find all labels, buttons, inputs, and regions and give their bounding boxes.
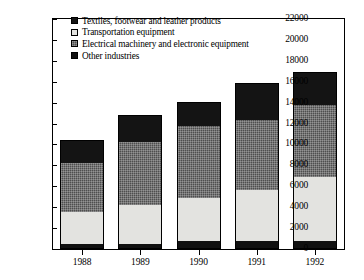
bar-segment xyxy=(118,142,162,205)
x-axis-tick-label: 1988 xyxy=(52,257,112,268)
legend-item-label: Textiles, footwear and leather products xyxy=(82,16,221,26)
bar-segment xyxy=(177,198,221,241)
y-axis-tick-label: 8000 xyxy=(264,161,308,171)
legend-item: Transportation equipment xyxy=(71,27,301,39)
legend-item: Electrical machinery and electronic equi… xyxy=(71,38,301,50)
y-axis-tick-mark xyxy=(52,228,57,229)
bar-group xyxy=(177,102,221,249)
legend-item: Other industries xyxy=(71,50,301,62)
bar-segment xyxy=(235,190,279,241)
legend-swatch-icon xyxy=(71,52,78,59)
y-axis-tick-mark xyxy=(52,165,57,166)
y-axis-tick-mark xyxy=(52,40,57,41)
y-axis-tick-label: 0 xyxy=(264,244,308,254)
bar-group xyxy=(60,140,104,249)
legend-swatch-icon xyxy=(71,29,78,36)
x-axis-tick-mark xyxy=(140,250,141,255)
bar-segment xyxy=(118,244,162,249)
legend-item-label: Electrical machinery and electronic equi… xyxy=(82,39,249,49)
bar-segment xyxy=(118,205,162,244)
bar-group xyxy=(118,115,162,249)
bar-segment xyxy=(60,140,104,163)
y-axis-tick-mark xyxy=(52,207,57,208)
y-axis-tick-label: 10000 xyxy=(264,140,308,150)
y-axis-tick-mark xyxy=(52,61,57,62)
y-axis-tick-mark xyxy=(52,249,57,250)
y-axis xyxy=(0,0,52,280)
y-axis-tick-label: 2000 xyxy=(264,223,308,233)
x-axis-tick-label: 1992 xyxy=(285,257,345,268)
y-axis-tick-label: 16000 xyxy=(264,77,308,87)
bar-segment xyxy=(177,241,221,249)
legend-item: Textiles, footwear and leather products xyxy=(71,15,301,27)
y-axis-tick-mark xyxy=(52,144,57,145)
x-axis-tick-label: 1989 xyxy=(110,257,170,268)
legend-item-label: Other industries xyxy=(82,51,139,61)
y-axis-tick-mark xyxy=(52,124,57,125)
x-axis-tick-mark xyxy=(199,250,200,255)
legend-swatch-icon xyxy=(71,40,78,47)
x-axis-tick-label: 1990 xyxy=(169,257,229,268)
y-axis-tick-label: 4000 xyxy=(264,202,308,212)
bar-segment xyxy=(60,163,104,212)
legend: Textiles, footwear and leather productsT… xyxy=(71,15,301,61)
x-axis-tick-mark xyxy=(257,250,258,255)
bar-segment xyxy=(177,126,221,198)
y-axis-tick-mark xyxy=(52,19,57,20)
bar-segment xyxy=(60,212,104,243)
bar-segment xyxy=(60,244,104,249)
x-axis-tick-mark xyxy=(82,250,83,255)
y-axis-tick-mark xyxy=(52,103,57,104)
y-axis-tick-label: 6000 xyxy=(264,182,308,192)
y-axis-tick-mark xyxy=(52,82,57,83)
bar-segment xyxy=(177,102,221,127)
legend-swatch-icon xyxy=(71,17,78,24)
stacked-bar-chart: 2200020000180001600014000120001000080006… xyxy=(0,0,364,280)
y-axis-tick-label: 12000 xyxy=(264,119,308,129)
y-axis-tick-mark xyxy=(52,186,57,187)
x-axis-tick-mark xyxy=(315,250,316,255)
y-axis-tick-label: 14000 xyxy=(264,98,308,108)
bar-segment xyxy=(235,120,279,190)
bar-segment xyxy=(118,115,162,142)
legend-item-label: Transportation equipment xyxy=(82,27,174,37)
x-axis-tick-label: 1991 xyxy=(227,257,287,268)
